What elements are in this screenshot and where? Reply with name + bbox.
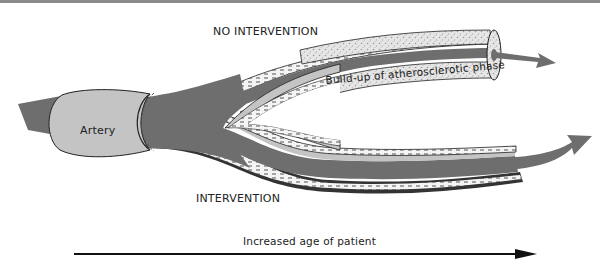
intervention-label: INTERVENTION: [196, 192, 280, 205]
age-axis-label: Increased age of patient: [243, 235, 376, 247]
no-intervention-label: NO INTERVENTION: [213, 25, 318, 38]
age-axis-arrow: [74, 249, 537, 259]
artery-label: Artery: [80, 124, 115, 137]
